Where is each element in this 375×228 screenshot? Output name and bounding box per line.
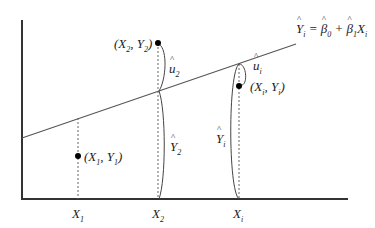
residual-label-u2: u2 [169,62,180,79]
residual-label-ui: ui [253,59,262,76]
point-2 [155,40,161,46]
residual-brace-ui [239,64,246,85]
fitted-label-yi: Yi [216,132,225,149]
point-label-i: (Xi, Yi) [250,80,285,97]
point-i [236,83,242,89]
fitted-brace-y2 [159,91,164,199]
regression-equation: Yi = β0 + β1Xi [296,22,367,39]
x-tick-xi: Xi [233,207,243,224]
x-tick-x1: X1 [72,207,84,224]
point-label-2: (X2, Y2) [114,37,152,54]
fitted-label-y2: Y2 [170,140,181,157]
residual-brace-u2 [159,44,165,91]
y-hat: Y [296,22,303,35]
point-1 [75,153,81,159]
point-label-1: (X1, Y1) [84,150,122,167]
x-tick-x2: X2 [152,207,164,224]
